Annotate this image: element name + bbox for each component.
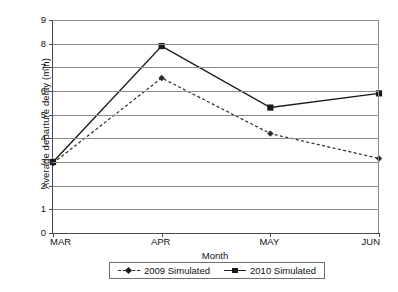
y-tick-mark — [49, 162, 53, 163]
y-tick-label: 7 — [30, 62, 46, 72]
y-tick-mark — [49, 186, 53, 187]
data-point-square-marker — [267, 104, 273, 110]
chart-figure: Average departure delay (min) 0123456789… — [0, 0, 398, 292]
plot-area — [52, 20, 379, 234]
data-point-diamond-marker — [376, 155, 382, 161]
legend-swatch-solid-square-icon — [224, 266, 246, 275]
y-tick-label: 6 — [30, 86, 46, 96]
y-tick-mark — [49, 209, 53, 210]
gridline — [53, 186, 379, 187]
chart-legend: 2009 Simulated 2010 Simulated — [109, 262, 325, 279]
data-point-diamond-marker — [158, 75, 164, 81]
y-tick-label: 5 — [30, 110, 46, 120]
x-tick-label: MAR — [50, 236, 110, 248]
y-tick-mark — [49, 138, 53, 139]
y-tick-label: 9 — [30, 15, 46, 25]
legend-label-2010: 2010 Simulated — [250, 265, 316, 276]
x-tick-label: MAY — [239, 236, 299, 248]
gridline — [53, 115, 379, 116]
legend-item-2010-simulated[interactable]: 2010 Simulated — [224, 265, 316, 276]
y-tick-mark — [49, 91, 53, 92]
y-tick-label: 2 — [30, 181, 46, 191]
y-tick-label: 3 — [30, 157, 46, 167]
x-tick-label: APR — [131, 236, 191, 248]
x-axis-title: Month — [52, 250, 378, 261]
legend-label-2009: 2009 Simulated — [144, 265, 210, 276]
gridline — [53, 44, 379, 45]
gridline — [53, 67, 379, 68]
y-axis-tick-labels: 0123456789 — [30, 13, 46, 241]
gridline — [53, 91, 379, 92]
y-tick-label: 8 — [30, 39, 46, 49]
plot-frame-right-edge — [378, 20, 379, 233]
gridline — [53, 20, 379, 21]
data-point-diamond-marker — [267, 130, 273, 136]
gridline — [53, 138, 379, 139]
series-layer — [53, 20, 379, 233]
y-tick-mark — [49, 67, 53, 68]
y-tick-label: 4 — [30, 133, 46, 143]
y-tick-label: 0 — [30, 228, 46, 238]
y-tick-label: 1 — [30, 204, 46, 214]
y-tick-mark — [49, 115, 53, 116]
x-axis-tick-labels: MARAPRMAYJUN — [52, 236, 378, 250]
series-line — [53, 46, 379, 162]
y-tick-mark — [49, 20, 53, 21]
x-tick-label: JUN — [320, 236, 380, 248]
legend-item-2009-simulated[interactable]: 2009 Simulated — [118, 265, 210, 276]
y-tick-mark — [49, 44, 53, 45]
gridline — [53, 209, 379, 210]
legend-swatch-dashed-diamond-icon — [118, 266, 140, 275]
gridline — [53, 162, 379, 163]
